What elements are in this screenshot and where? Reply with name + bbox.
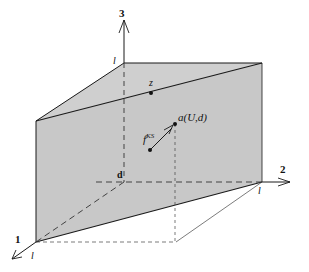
point-a [173, 122, 177, 126]
point-f-label: fKS [143, 133, 154, 145]
axis-3-tick-label: l [113, 56, 116, 66]
diagram-svg [0, 0, 309, 272]
axis-3-label: 3 [119, 8, 125, 19]
point-f [148, 148, 152, 152]
axis-1-label: 1 [15, 234, 21, 245]
axis-2-tick-label: l [258, 186, 261, 196]
diagram-canvas: 3 l 2 l 1 l d z a(U,d) fKS [0, 0, 309, 272]
axis-2-label: 2 [280, 164, 286, 175]
point-a-label: a(U,d) [178, 112, 207, 123]
point-f-superscript: KS [146, 132, 154, 140]
origin-label: d [117, 170, 123, 180]
axis-1-tick-label: l [31, 251, 34, 261]
point-z-label: z [149, 78, 153, 88]
point-z [149, 91, 153, 95]
